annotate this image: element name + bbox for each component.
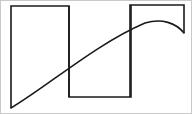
line-art-figure bbox=[0, 0, 192, 114]
figure-canvas: Line drawing: three open rectangular out… bbox=[0, 0, 192, 114]
